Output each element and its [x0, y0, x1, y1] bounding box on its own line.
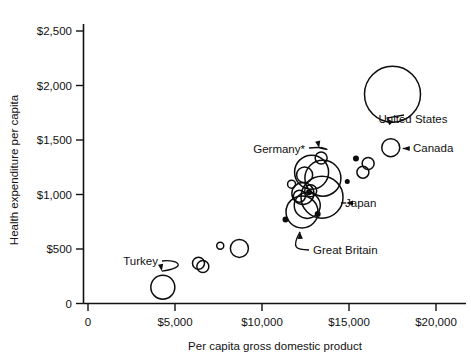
- y-tick-label: $1,000: [37, 189, 72, 201]
- x-tick-label: 0: [85, 316, 91, 328]
- bubble-unlabeled-c: [357, 166, 369, 178]
- x-axis-ticks: 0$5,000$10,000$15,000$20,000: [85, 304, 457, 329]
- y-tick-label: $1,500: [37, 134, 72, 146]
- label-canada: Canada: [413, 142, 454, 154]
- x-axis-title: Per capita gross domestic product: [188, 340, 363, 352]
- x-tick-label: $10,000: [241, 316, 283, 328]
- leader-line: [295, 232, 309, 250]
- scatter-plot: 0$500$1,000$1,500$2,000$2,500 0$5,000$10…: [0, 0, 471, 363]
- bubble-unlabeled-d: [345, 179, 350, 184]
- leader-arrowhead: [403, 146, 410, 151]
- chart-page: 0$500$1,000$1,500$2,000$2,500 0$5,000$10…: [0, 0, 471, 363]
- bubble-unlabeled-f: [230, 239, 248, 257]
- y-axis-title: Health expenditure per capita: [8, 94, 20, 245]
- data-bubbles: [151, 66, 421, 299]
- bubble-unlabeled-e: [282, 217, 288, 223]
- x-tick-label: $20,000: [415, 316, 457, 328]
- label-great-britain: Great Britain: [313, 244, 378, 256]
- point-annotations: United StatesCanadaGermany*JapanGreat Br…: [123, 113, 454, 267]
- leader-line: [162, 261, 178, 271]
- label-germany: Germany*: [253, 143, 305, 155]
- bubble-turkey: [151, 275, 175, 299]
- x-tick-label: $15,000: [328, 316, 370, 328]
- bubble-unlabeled-a: [353, 156, 359, 162]
- leader-line: [309, 148, 327, 150]
- x-tick-label: $5,000: [157, 316, 192, 328]
- bubble-canada: [382, 139, 400, 157]
- label-united-states: United States: [378, 113, 447, 125]
- label-turkey: Turkey: [123, 255, 158, 267]
- label-japan: Japan: [345, 197, 376, 209]
- bubble-cluster-low-dot: [315, 211, 321, 217]
- bubble-unlabeled-b: [362, 157, 374, 169]
- y-tick-label: $2,000: [37, 80, 72, 92]
- bubble-unlabeled-g: [217, 242, 224, 249]
- y-tick-label: $2,500: [37, 25, 72, 37]
- y-tick-label: 0: [66, 298, 72, 310]
- y-tick-label: $500: [46, 243, 72, 255]
- y-axis-ticks: 0$500$1,000$1,500$2,000$2,500: [37, 25, 84, 310]
